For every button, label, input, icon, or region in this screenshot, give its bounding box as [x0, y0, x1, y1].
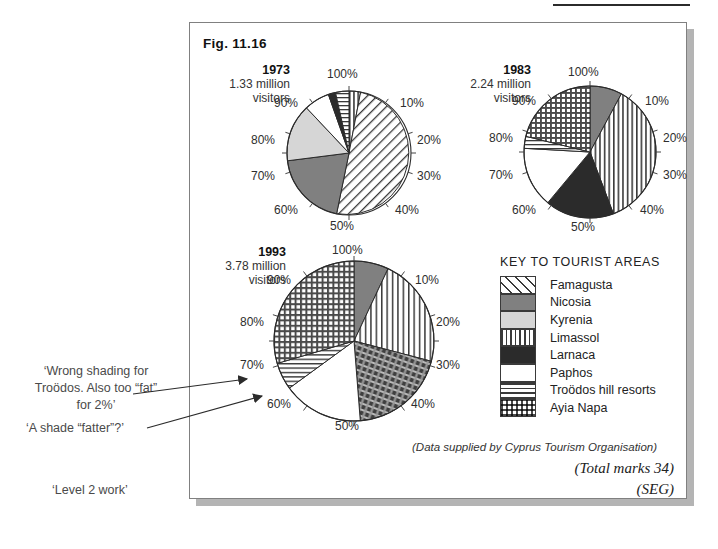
swatch-solid-black-icon	[500, 346, 536, 364]
pct-1973-50: 50%	[330, 219, 354, 233]
key-to-tourist-areas: KEY TO TOURIST AREAS Famagusta Nicosia K…	[500, 255, 680, 417]
pct-1973-20: 20%	[417, 133, 441, 147]
swatch-diagonal-hatch-icon	[500, 276, 536, 294]
key-label-limassol: Limassol	[550, 331, 599, 345]
exam-board: (SEG)	[412, 481, 674, 498]
pct-1983-30: 30%	[663, 168, 687, 182]
pct-1983-40: 40%	[640, 203, 664, 217]
swatch-cross-grid-icon	[500, 399, 536, 417]
pct-1973-10: 10%	[400, 96, 424, 110]
pct-1983-80: 80%	[489, 131, 513, 145]
key-row-famagusta: Famagusta	[500, 276, 680, 294]
key-title: KEY TO TOURIST AREAS	[500, 255, 680, 269]
pct-1973-60: 60%	[274, 203, 298, 217]
key-row-kyrenia: Kyrenia	[500, 311, 680, 329]
pct-1983-90: 90%	[512, 94, 536, 108]
annotation-troodos-shading: ‘Wrong shading for Troödos. Also too “fa…	[26, 363, 166, 414]
pct-1993-10: 10%	[415, 273, 439, 287]
pct-1983-10: 10%	[645, 94, 669, 108]
key-row-limassol: Limassol	[500, 329, 680, 347]
pct-1993-50: 50%	[335, 419, 359, 433]
pct-1993-70: 70%	[240, 358, 264, 372]
pct-1993-100: 100%	[332, 243, 363, 257]
pie-1983-slices	[519, 81, 661, 223]
key-label-troodos: Troödos hill resorts	[550, 383, 656, 397]
pct-1973-100: 100%	[327, 67, 358, 81]
page-root: Fig. 11.16 1973 1.33 million visitors	[0, 0, 718, 549]
pct-1973-90: 90%	[274, 96, 298, 110]
swatch-horizontal-stripe-icon	[500, 382, 536, 400]
total-marks: (Total marks 34)	[412, 460, 674, 477]
pct-1983-60: 60%	[512, 203, 536, 217]
pct-1983-100: 100%	[568, 65, 599, 79]
swatch-solid-white-icon	[500, 364, 536, 382]
key-row-paphos: Paphos	[500, 364, 680, 382]
chart-1973: 100% 10% 20% 30% 40% 50% 60% 70% 80% 90%	[254, 73, 444, 233]
pct-1983-50: 50%	[571, 220, 595, 234]
key-row-nicosia: Nicosia	[500, 294, 680, 312]
pct-1993-90: 90%	[267, 273, 291, 287]
pct-1973-30: 30%	[417, 169, 441, 183]
key-label-paphos: Paphos	[550, 366, 592, 380]
pct-1973-40: 40%	[395, 203, 419, 217]
swatch-solid-dark-gray-icon	[500, 294, 536, 312]
key-row-larnaca: Larnaca	[500, 346, 680, 364]
pie-1973-slices	[282, 86, 416, 220]
swatch-vertical-stripe-icon	[500, 329, 536, 347]
chart-1993: 100% 10% 20% 30% 40% 50% 60% 70% 80% 90%	[248, 245, 460, 441]
pct-1993-60: 60%	[267, 397, 291, 411]
annotation-level-2-work: ‘Level 2 work’	[52, 482, 182, 499]
pct-1993-40: 40%	[411, 397, 435, 411]
top-rule	[553, 4, 690, 6]
figure-label: Fig. 11.16	[203, 36, 267, 51]
key-row-ayia-napa: Ayia Napa	[500, 399, 680, 417]
pct-1983-70: 70%	[489, 168, 513, 182]
pct-1983-20: 20%	[663, 131, 687, 145]
pct-1993-30: 30%	[436, 358, 460, 372]
key-label-kyrenia: Kyrenia	[550, 313, 592, 327]
swatch-solid-light-gray-icon	[500, 311, 536, 329]
figure-card: Fig. 11.16 1973 1.33 million visitors	[189, 22, 687, 499]
key-label-famagusta: Famagusta	[550, 278, 613, 292]
source-note: (Data supplied by Cyprus Tourism Organis…	[412, 441, 674, 453]
chart-1983: 100% 10% 20% 30% 40% 50% 60% 70% 80% 90%	[495, 67, 685, 237]
key-label-ayia-napa: Ayia Napa	[550, 401, 607, 415]
key-rows: Famagusta Nicosia Kyrenia Limassol Larna	[500, 276, 680, 417]
pct-1993-80: 80%	[240, 315, 264, 329]
key-label-larnaca: Larnaca	[550, 348, 595, 362]
pct-1973-80: 80%	[251, 133, 275, 147]
pct-1993-20: 20%	[436, 315, 460, 329]
key-label-nicosia: Nicosia	[550, 295, 591, 309]
annotation-shade-fatter: ‘A shade “fatter”?’	[26, 420, 176, 437]
pct-1973-70: 70%	[251, 169, 275, 183]
key-row-troodos: Troödos hill resorts	[500, 382, 680, 400]
